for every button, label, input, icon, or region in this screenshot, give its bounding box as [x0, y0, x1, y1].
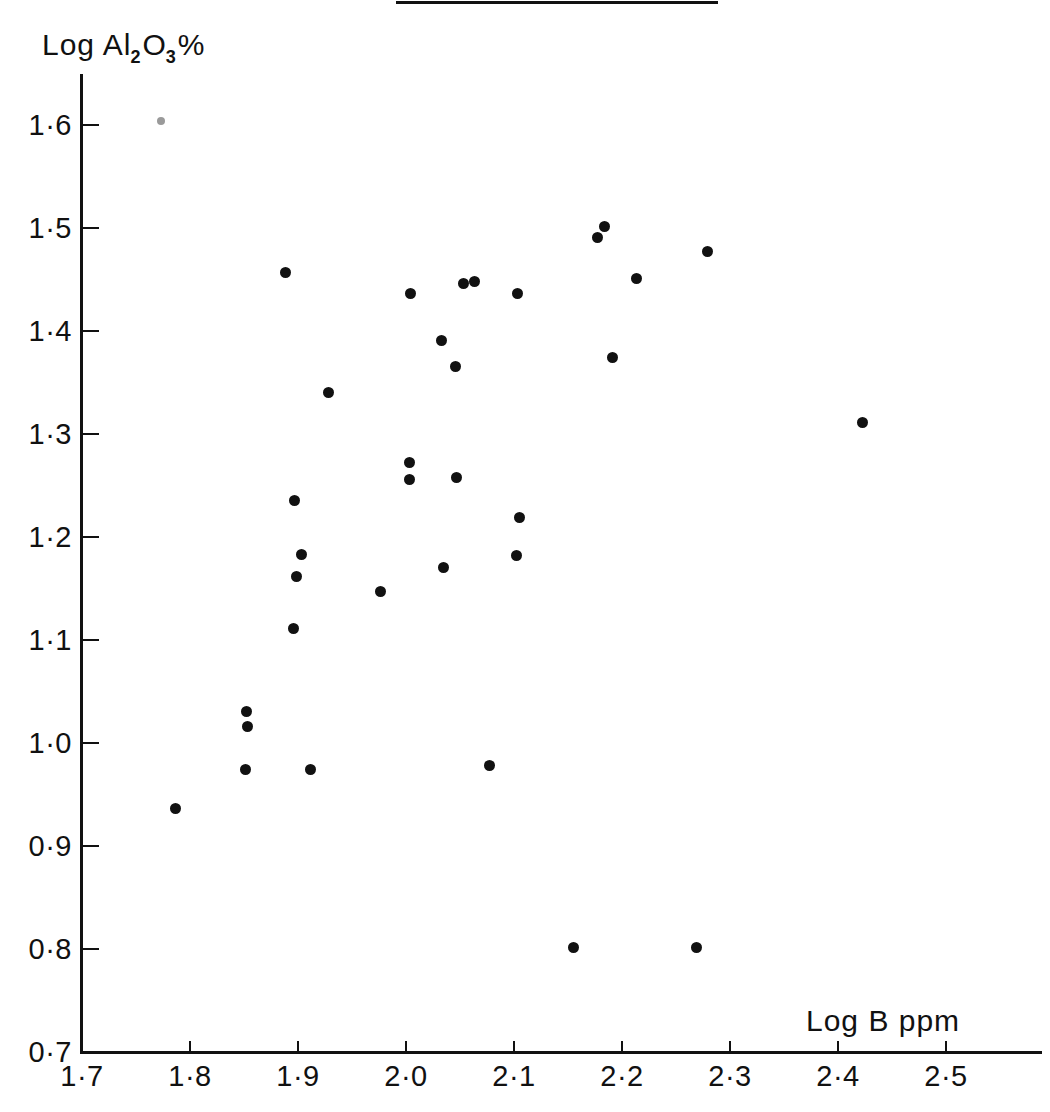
scatter-point	[305, 764, 316, 775]
scatter-point	[404, 474, 415, 485]
y-axis-tick-label: 1·0	[0, 729, 72, 758]
scatter-point	[607, 352, 618, 363]
y-axis-tick-label: 1·4	[0, 317, 72, 346]
y-axis-tick-label: 1·6	[0, 111, 72, 140]
x-axis-tick-label: 2·3	[675, 1062, 785, 1091]
x-axis-tick-label: 2·0	[351, 1062, 461, 1091]
y-axis-title-oxygen: O	[142, 28, 166, 61]
scatter-point	[458, 278, 469, 289]
scatter-point	[291, 571, 302, 582]
scatter-point	[375, 586, 386, 597]
y-axis-tick-label: 0·9	[0, 832, 72, 861]
y-axis-title-sub-2: 2	[130, 47, 141, 67]
x-axis-line	[80, 1051, 1042, 1054]
scatter-point	[405, 288, 416, 299]
y-axis-line	[80, 74, 83, 1054]
x-axis-tick	[729, 1041, 731, 1052]
y-axis-title-percent: %	[178, 28, 206, 61]
y-axis-tick-label: 1·5	[0, 214, 72, 243]
scatter-point	[599, 221, 610, 232]
y-axis-title-sub-3: 3	[166, 47, 177, 67]
scatter-point	[241, 706, 252, 717]
x-axis-tick-label: 1·8	[135, 1062, 245, 1091]
scatter-point	[404, 457, 415, 468]
y-axis-tick	[83, 845, 99, 847]
x-axis-title: Log B ppm	[806, 1004, 960, 1038]
x-axis-tick-label: 1·7	[27, 1062, 137, 1091]
y-axis-tick-label: 0·8	[0, 935, 72, 964]
x-axis-tick	[189, 1041, 191, 1052]
scatter-point	[451, 472, 462, 483]
scatter-point	[280, 267, 291, 278]
scatter-point	[289, 495, 300, 506]
scatter-point	[511, 550, 522, 561]
scatter-point	[691, 942, 702, 953]
x-axis-tick	[837, 1041, 839, 1052]
scatter-point	[514, 512, 525, 523]
y-axis-tick	[83, 227, 99, 229]
x-axis-tick	[297, 1041, 299, 1052]
scatter-point	[469, 276, 480, 287]
y-axis-tick	[83, 433, 99, 435]
scatter-point	[438, 562, 449, 573]
scatter-point	[242, 721, 253, 732]
y-axis-tick-label: 1·3	[0, 420, 72, 449]
scatter-point	[568, 942, 579, 953]
y-axis-title-prefix: Log Al	[42, 28, 131, 61]
scatter-point	[157, 117, 165, 125]
scatter-point	[170, 803, 181, 814]
scatter-plot-figure: Log Al2O3% Log B ppm 0·70·80·91·01·11·21…	[0, 0, 1050, 1112]
y-axis-tick	[83, 742, 99, 744]
scatter-point	[288, 623, 299, 634]
x-axis-tick-label: 1·9	[243, 1062, 353, 1091]
y-axis-tick	[83, 1051, 99, 1053]
x-axis-tick	[513, 1041, 515, 1052]
top-rule-divider	[396, 1, 718, 4]
scatter-point	[484, 760, 495, 771]
y-axis-tick	[83, 639, 99, 641]
y-axis-tick	[83, 124, 99, 126]
scatter-point	[436, 335, 447, 346]
scatter-point	[240, 764, 251, 775]
x-axis-tick-label: 2·4	[783, 1062, 893, 1091]
x-axis-tick	[945, 1041, 947, 1052]
scatter-point	[512, 288, 523, 299]
scatter-point	[631, 273, 642, 284]
x-axis-tick-label: 2·5	[891, 1062, 1001, 1091]
y-axis-title: Log Al2O3%	[42, 28, 205, 62]
x-axis-tick	[621, 1041, 623, 1052]
scatter-point	[702, 246, 713, 257]
x-axis-tick-label: 2·1	[459, 1062, 569, 1091]
scatter-point	[323, 387, 334, 398]
x-axis-tick	[405, 1041, 407, 1052]
scatter-point	[450, 361, 461, 372]
scatter-point	[592, 232, 603, 243]
y-axis-tick-label: 1·1	[0, 626, 72, 655]
x-axis-tick-label: 2·2	[567, 1062, 677, 1091]
y-axis-tick-label: 1·2	[0, 523, 72, 552]
scatter-point	[296, 549, 307, 560]
scatter-point	[857, 417, 868, 428]
y-axis-tick	[83, 948, 99, 950]
y-axis-tick	[83, 330, 99, 332]
y-axis-tick	[83, 536, 99, 538]
